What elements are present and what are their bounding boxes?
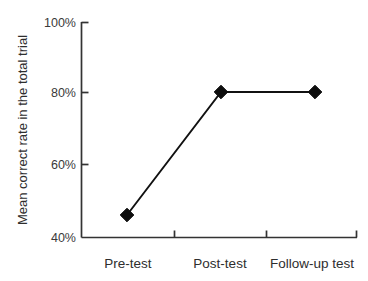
x-category-label-pre-test: Pre-test (104, 256, 152, 271)
chart-canvas: 100% 80% 60% 40% Mean correct rate in th… (0, 0, 368, 281)
y-axis-title: Mean correct rate in the total trial (15, 35, 30, 225)
x-category-label-follow-up-test: Follow-up test (270, 256, 354, 271)
y-tick-label-80: 80% (51, 86, 76, 100)
y-tick-label-100: 100% (44, 16, 76, 30)
x-category-label-post-test: Post-test (193, 256, 247, 271)
line-chart: 100% 80% 60% 40% Mean correct rate in th… (0, 0, 368, 281)
y-tick-label-40: 40% (51, 231, 76, 245)
y-tick-label-60: 60% (51, 158, 76, 172)
